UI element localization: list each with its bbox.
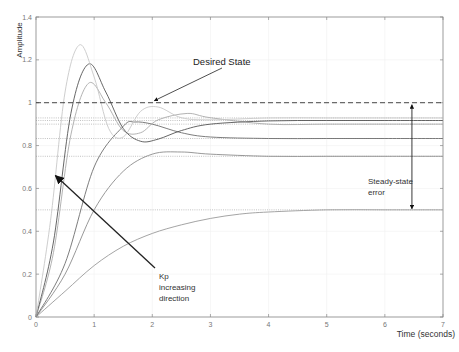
series-line-kp1 bbox=[36, 210, 443, 317]
x-tick-label: 2 bbox=[150, 321, 154, 328]
desired-state-label: Desired State bbox=[193, 56, 251, 67]
x-tick-label: 7 bbox=[441, 321, 445, 328]
y-axis-label: Amplitude bbox=[15, 22, 24, 58]
x-tick-label: 3 bbox=[208, 321, 212, 328]
desired-state-arrow bbox=[154, 68, 222, 101]
x-tick-label: 4 bbox=[267, 321, 271, 328]
y-tick-label: 0.6 bbox=[22, 185, 32, 192]
y-tick-label: 0.8 bbox=[22, 142, 32, 149]
x-axis-label: Time (seconds) bbox=[397, 329, 455, 339]
kp-label-2: increasing bbox=[159, 283, 195, 292]
x-tick-label: 5 bbox=[325, 321, 329, 328]
x-tick-label: 1 bbox=[92, 321, 96, 328]
series-line-kp3 bbox=[36, 121, 443, 317]
kp-direction-arrow bbox=[55, 176, 155, 268]
x-tick-label: 0 bbox=[34, 321, 38, 328]
kp-label: Kp bbox=[159, 272, 169, 281]
kp-label-3: direction bbox=[159, 294, 189, 303]
y-tick-label: 0.2 bbox=[22, 271, 32, 278]
step-response-chart: 0123456700.20.40.60.811.21.4 Time (secon… bbox=[0, 0, 459, 352]
steady-state-error-label: Steady-state bbox=[368, 177, 413, 186]
y-tick-label: 1 bbox=[28, 99, 32, 106]
y-tick-label: 0 bbox=[28, 314, 32, 321]
x-tick-label: 6 bbox=[383, 321, 387, 328]
y-tick-label: 1.4 bbox=[22, 14, 32, 21]
y-tick-label: 0.4 bbox=[22, 228, 32, 235]
steady-state-error-label-2: error bbox=[368, 188, 385, 197]
